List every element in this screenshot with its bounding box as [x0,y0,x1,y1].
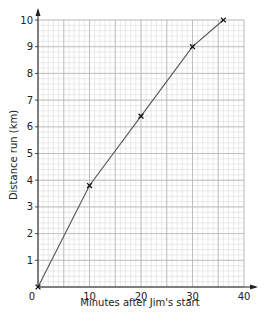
y-tick-label: 8 [27,68,33,79]
y-tick-label: 3 [27,201,33,212]
y-tick-labels: 12345678910 [20,15,38,266]
x-tick-label: 40 [238,291,251,302]
y-tick-label: 7 [27,95,33,106]
y-tick-label: 1 [27,255,33,266]
y-tick-label: 2 [27,228,33,239]
y-tick-label: 5 [27,148,33,159]
x-tick-label: 0 [29,291,35,302]
y-axis-label: Distance run (km) [8,110,19,200]
y-tick-label: 4 [27,175,33,186]
y-tick-label: 10 [20,15,33,26]
y-tick-label: 6 [27,121,33,132]
x-axis-label: Minutes after Jim's start [80,297,199,308]
distance-time-chart: 010203040 12345678910 Minutes after Jim'… [0,0,274,324]
y-tick-label: 9 [27,41,33,52]
